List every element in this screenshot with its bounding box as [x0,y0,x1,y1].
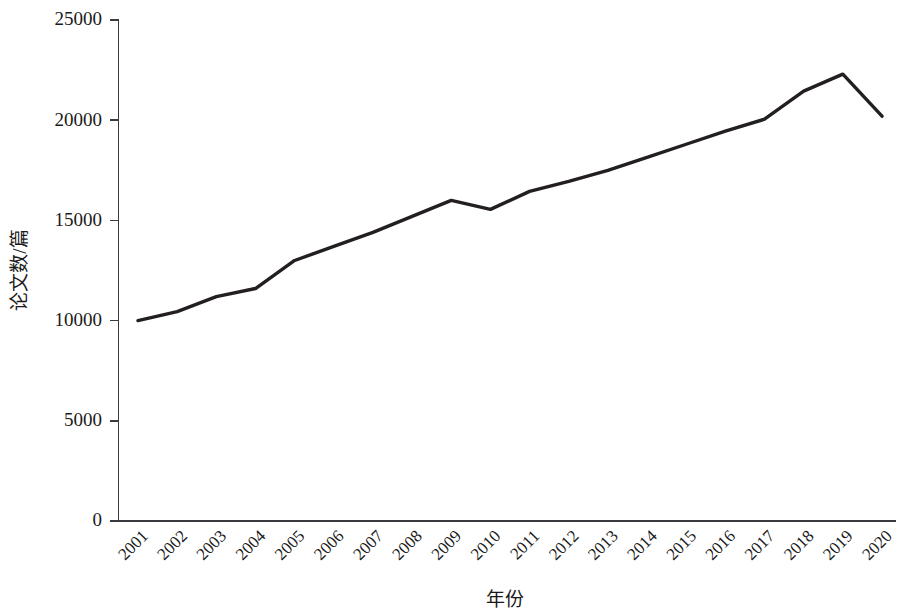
y-axis-title: 论文数/篇 [9,229,30,310]
y-tick-label: 10000 [55,309,103,330]
line-chart: 0500010000150002000025000 20012002200320… [0,0,898,615]
y-tick-label: 20000 [55,109,103,130]
y-tick-label: 15000 [55,209,103,230]
x-axis-title: 年份 [486,589,524,610]
chart-canvas: 0500010000150002000025000 20012002200320… [0,0,898,615]
y-tick-label: 25000 [55,8,103,29]
y-tick-label: 0 [93,509,103,530]
chart-background [0,0,898,615]
y-tick-label: 5000 [64,409,102,430]
